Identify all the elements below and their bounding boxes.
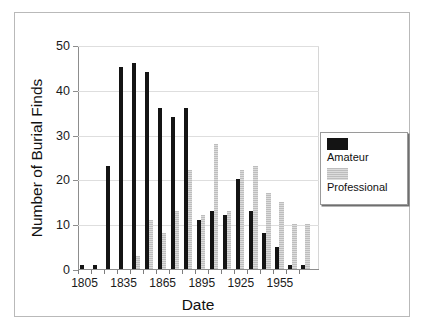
x-axis-tick xyxy=(104,270,105,274)
y-axis-tick xyxy=(73,91,78,92)
x-axis-tick xyxy=(78,270,79,274)
bar-professional-1885 xyxy=(188,170,192,269)
legend-label-professional: Professional xyxy=(327,181,401,194)
y-axis-tick-label: 10 xyxy=(56,218,70,232)
x-axis-tick xyxy=(182,270,183,274)
x-axis-tick xyxy=(156,270,157,274)
legend-entry-amateur: Amateur xyxy=(327,138,401,164)
bar-amateur-1805 xyxy=(80,265,84,269)
chart-legend: Amateur Professional xyxy=(320,132,408,205)
bar-professional-1925 xyxy=(240,170,244,269)
y-axis-tick-label: 20 xyxy=(56,173,70,187)
x-axis-tick xyxy=(247,270,248,274)
y-axis-line xyxy=(78,46,79,270)
bar-professional-1945 xyxy=(266,193,270,269)
gridline xyxy=(78,180,319,181)
legend-label-amateur: Amateur xyxy=(327,151,401,164)
gray-square-swatch-icon xyxy=(327,168,348,180)
plot-area: 01020304050 180518351865189519251955 xyxy=(78,46,319,270)
x-axis-tick xyxy=(273,270,274,274)
y-axis-tick xyxy=(73,225,78,226)
x-axis-tick xyxy=(260,270,261,274)
x-axis-tick xyxy=(299,270,300,274)
bar-professional-1915 xyxy=(227,211,231,269)
x-axis-tick-label: 1835 xyxy=(110,276,137,290)
y-axis-tick-label: 0 xyxy=(63,263,70,277)
bar-amateur-1815 xyxy=(93,265,97,269)
black-square-swatch-icon xyxy=(327,138,348,150)
bar-professional-1965 xyxy=(292,224,296,269)
bar-professional-1905 xyxy=(214,144,218,269)
x-axis-tick xyxy=(286,270,287,274)
x-axis-title: Date xyxy=(182,296,215,314)
y-axis-tick xyxy=(73,136,78,137)
gridline xyxy=(78,136,319,137)
x-axis-tick-label: 1925 xyxy=(227,276,254,290)
plot-border-right xyxy=(318,46,319,270)
x-axis-tick-label: 1955 xyxy=(267,276,294,290)
x-axis-tick xyxy=(130,270,131,274)
x-axis-tick xyxy=(195,270,196,274)
gridline xyxy=(78,46,319,47)
bar-amateur-1825 xyxy=(106,166,110,269)
bar-professional-1865 xyxy=(162,233,166,269)
y-axis-title: Number of Burial Finds xyxy=(28,79,46,238)
x-axis-tick xyxy=(221,270,222,274)
bar-amateur-1835 xyxy=(119,67,123,269)
bar-professional-1875 xyxy=(175,211,179,269)
x-axis-tick xyxy=(234,270,235,274)
x-axis-tick xyxy=(208,270,209,274)
bar-professional-1975 xyxy=(305,224,309,269)
bar-professional-1895 xyxy=(201,215,205,269)
bar-amateur-1845 xyxy=(132,63,136,269)
y-axis-tick xyxy=(73,46,78,47)
x-axis-tick xyxy=(91,270,92,274)
chart-frame: Number of Burial Finds Date 01020304050 … xyxy=(14,12,410,317)
y-axis-tick-label: 40 xyxy=(56,84,70,98)
bar-professional-1845 xyxy=(136,256,140,269)
x-axis-tick xyxy=(117,270,118,274)
gridline xyxy=(78,91,319,92)
y-axis-tick-label: 50 xyxy=(56,39,70,53)
x-axis-tick xyxy=(143,270,144,274)
x-axis-tick-label: 1895 xyxy=(188,276,215,290)
bar-professional-1955 xyxy=(279,202,283,269)
x-axis-tick xyxy=(169,270,170,274)
x-axis-line xyxy=(78,269,319,270)
y-axis-tick-label: 30 xyxy=(56,129,70,143)
y-axis-tick xyxy=(73,180,78,181)
legend-entry-professional: Professional xyxy=(327,168,401,194)
x-axis-tick-label: 1865 xyxy=(149,276,176,290)
x-axis-tick-label: 1805 xyxy=(71,276,98,290)
bar-professional-1855 xyxy=(149,220,153,269)
bar-professional-1935 xyxy=(253,166,257,269)
